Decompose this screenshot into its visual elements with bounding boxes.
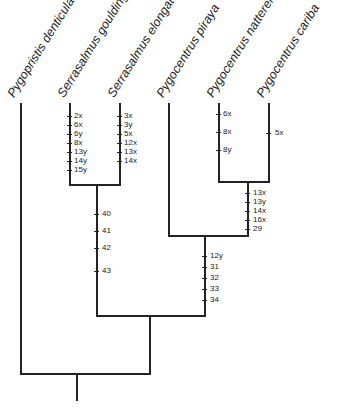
character-label: 34 [210,296,219,304]
character-tick [202,278,207,279]
character-tick [266,133,271,134]
branch-nattereri-cariba-clade [247,181,249,236]
character-tick [245,193,250,194]
character-tick [67,170,72,171]
character-label: 32 [210,274,219,282]
character-tick [94,248,99,249]
character-tick [245,220,250,221]
character-label: 6y [74,130,82,138]
character-label: 8x [74,139,82,147]
branch-pygocentrus-piraya [168,103,170,236]
character-tick [245,229,250,230]
character-label: 5x [275,129,283,137]
character-tick [117,125,122,126]
node-serrasalmus [69,184,121,186]
character-tick [117,134,122,135]
node-pygocentrus [168,235,249,237]
character-tick [117,152,122,153]
character-tick [202,289,207,290]
character-tick [202,300,207,301]
character-tick [117,143,122,144]
character-label: 13y [74,148,87,156]
character-label: 29 [253,225,262,233]
character-label: 8y [223,146,231,154]
character-label: 12y [210,252,223,260]
character-tick [67,152,72,153]
character-label: 13y [253,198,266,206]
character-tick [202,267,207,268]
character-label: 6x [74,121,82,129]
character-label: 12x [124,139,137,147]
character-label: 42 [102,244,111,252]
branch-serrasalmus-clade [96,184,98,316]
character-tick [245,202,250,203]
character-tick [216,132,221,133]
character-label: 14y [74,157,87,165]
character-tick [94,214,99,215]
branch-pygopristis-denticulata [20,103,22,374]
cladogram: Pygopristis denticulata Serrasalmus goul… [0,0,346,414]
character-label: 14x [124,157,137,165]
character-tick [117,116,122,117]
character-label: 31 [210,263,219,271]
character-tick [67,116,72,117]
character-tick [216,150,221,151]
character-label: 13x [253,189,266,197]
character-tick [67,134,72,135]
character-label: 5x [124,130,132,138]
character-label: 33 [210,285,219,293]
branch-pygocentrus-clade [204,235,206,316]
node-serrasalmus-pygocentrus [96,315,206,317]
node-root [20,373,151,375]
character-label: 15y [74,166,87,174]
character-tick [216,114,221,115]
character-label: 14x [253,207,266,215]
character-tick [94,231,99,232]
character-label: 41 [102,227,111,235]
character-label: 6x [223,110,231,118]
character-label: 2x [74,112,82,120]
root-stem [76,373,78,401]
node-nattereri-cariba [218,181,270,183]
character-label: 3x [124,112,132,120]
character-tick [117,161,122,162]
character-tick [67,161,72,162]
character-label: 13x [124,148,137,156]
character-label: 8x [223,128,231,136]
character-tick [94,271,99,272]
character-label: 16x [253,216,266,224]
character-label: 40 [102,210,111,218]
branch-pygocentrus-cariba [268,103,270,182]
character-label: 43 [102,267,111,275]
character-label: 3y [124,121,132,129]
branch-serrasalmus-pygocentrus [149,315,151,374]
character-tick [67,143,72,144]
character-tick [245,211,250,212]
character-tick [67,125,72,126]
character-tick [202,256,207,257]
